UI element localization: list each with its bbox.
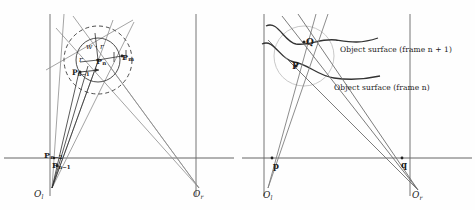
ray-or-to-q (298, 14, 418, 190)
right-panel-points (271, 40, 404, 159)
point-q-label: Q (306, 37, 314, 47)
left-panel-drawing (0, 0, 238, 210)
image-point-p-dot (271, 157, 274, 160)
right-panel-drawing (238, 0, 475, 210)
point-pn-1-label: Pn−1 (72, 68, 90, 77)
right-panel-camera-right-label: Or (412, 190, 423, 201)
outer-radius-label: w · r (86, 42, 104, 51)
right-panel-camera-left-label: Ol (263, 190, 273, 201)
left-panel-camera-left-label: Ol (34, 189, 44, 200)
point-pn-label: Pn (96, 56, 106, 66)
object-surface-upper-label: Object surface (frame n + 1) (340, 45, 452, 54)
image-point-q-dot (401, 157, 404, 160)
object-surface-curve-upper (266, 25, 378, 44)
right-ray-c (108, 64, 199, 188)
point-p-label: P (292, 61, 299, 71)
point-pn-2-label: Pn−2 (44, 150, 63, 160)
radius-label: r (79, 55, 83, 64)
object-surface-lower-label: Object surface (frame n) (334, 83, 430, 92)
ray-or-to-p (268, 40, 418, 190)
image-point-q-label: q (401, 160, 407, 170)
point-pn-1-image-label: Pn−1 (52, 160, 71, 170)
left-panel-camera-right-label: Or (193, 189, 204, 200)
point-pm-label: Pm (122, 52, 134, 62)
image-point-p-label: p (273, 161, 279, 171)
stereo-geometry-figure: Ol Or Pn−2 Pn−1 Pn Pn−1 Pm r w · r (0, 0, 475, 210)
